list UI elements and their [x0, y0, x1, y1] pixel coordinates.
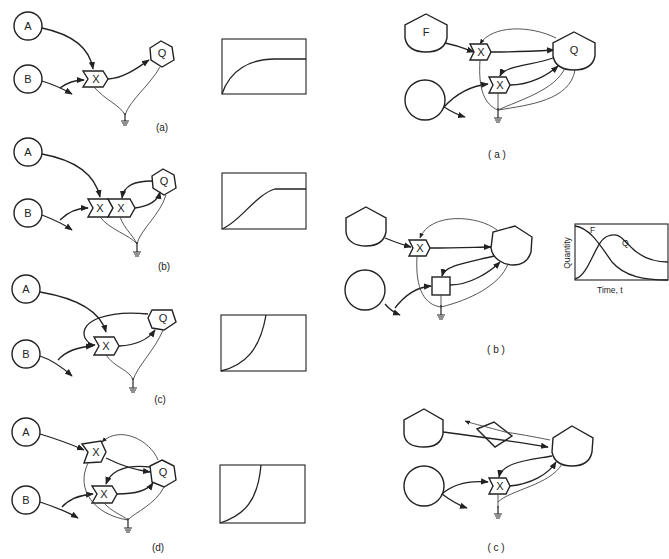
chart-left-c: [221, 315, 306, 371]
process-x1-label: X: [477, 46, 485, 58]
source-a-label: A: [22, 426, 30, 438]
panel-right-a: F X Q X ( a ): [405, 14, 595, 160]
heat-sink-icon: [437, 305, 445, 319]
source-a-label: A: [22, 283, 30, 295]
y-axis-label: Quantity: [562, 236, 572, 268]
source-circle: [404, 466, 444, 506]
output-q-label: Q: [158, 47, 167, 59]
panel-left-d: A B X X Q (d): [12, 418, 305, 553]
output-q-label: Q: [570, 44, 579, 56]
x-axis-label: Time, t: [597, 285, 623, 295]
panel-right-b: X ( b ) F Q Time, t Quantity: [345, 207, 668, 355]
process-x1-label: X: [92, 446, 100, 458]
caption-left-a: (a): [156, 122, 168, 133]
heat-sink-icon: [494, 108, 502, 122]
process-x-label: X: [416, 242, 424, 254]
source-f-label: F: [423, 26, 430, 38]
process-x-label: X: [92, 73, 100, 85]
source-f-tank: [404, 409, 443, 447]
source-a-label: A: [24, 20, 32, 32]
chart-quantity-vs-time: F Q Time, t Quantity: [562, 224, 668, 295]
source-b-label: B: [24, 207, 31, 219]
source-b-label: B: [22, 494, 29, 506]
caption-right-b: ( b ): [487, 344, 505, 355]
heat-sink-icon: [124, 518, 132, 532]
heat-sink-icon: [133, 242, 141, 256]
process-x1-label: X: [96, 202, 104, 214]
source-circle: [405, 80, 445, 120]
output-q-tank: [491, 226, 532, 265]
caption-right-c: ( c ): [487, 542, 504, 553]
caption-left-d: (d): [152, 542, 164, 553]
process-x-label: X: [496, 480, 504, 492]
curve-f-label: F: [590, 225, 595, 235]
process-x2-label: X: [496, 79, 504, 91]
heat-sink-icon: [494, 506, 502, 518]
source-a-label: A: [24, 146, 32, 158]
output-q-label: Q: [160, 175, 169, 187]
output-q-tank: [552, 426, 593, 466]
panel-left-c: A B X Q (c): [12, 275, 306, 405]
chart-left-a: [222, 39, 306, 94]
heat-sink-icon: [129, 378, 137, 392]
process-square: [432, 277, 450, 295]
source-f-tank: [346, 207, 386, 246]
source-circle: [345, 270, 385, 310]
panel-right-c: X ( c ): [404, 409, 593, 553]
panel-left-a: A B X Q (a): [14, 12, 306, 133]
chart-left-d: [220, 465, 305, 523]
caption-right-a: ( a ): [488, 149, 506, 160]
process-x2-label: X: [100, 488, 108, 500]
source-b-label: B: [22, 348, 29, 360]
output-q-label: Q: [159, 312, 168, 324]
caption-left-c: (c): [154, 394, 166, 405]
source-b-label: B: [24, 73, 31, 85]
caption-left-b: (b): [158, 261, 170, 272]
process-x-label: X: [102, 340, 110, 352]
output-q-label: Q: [159, 466, 168, 478]
curve-q-label: Q: [622, 238, 629, 248]
process-x2-label: X: [117, 202, 125, 214]
panel-left-b: A B X X Q (b): [14, 138, 306, 272]
heat-sink-icon: [121, 113, 129, 125]
